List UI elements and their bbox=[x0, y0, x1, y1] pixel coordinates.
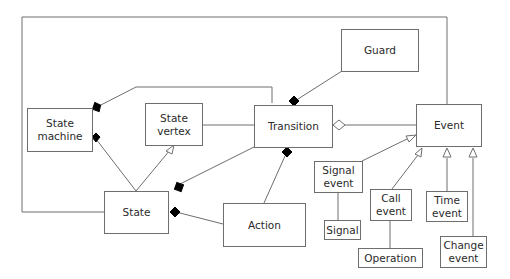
change-event-box: Change event bbox=[440, 236, 487, 268]
composition-diamond-icon bbox=[170, 207, 180, 217]
generalization-arrow-icon bbox=[469, 148, 477, 157]
generalization-arrow-icon bbox=[406, 135, 416, 142]
action-box: Action bbox=[223, 203, 306, 247]
guard-box: Guard bbox=[341, 29, 419, 72]
statemachine-state-line bbox=[96, 139, 136, 191]
transition-action-line bbox=[264, 156, 285, 203]
operation-box: Operation bbox=[358, 248, 423, 268]
state-box: State bbox=[104, 191, 169, 234]
generalization-arrow-icon bbox=[415, 148, 422, 157]
transition-guard-line bbox=[298, 71, 342, 99]
signal-box: Signal bbox=[324, 220, 361, 240]
state-action-line bbox=[176, 212, 223, 224]
state-machine-box: State machine bbox=[27, 108, 93, 152]
aggregation-diamond-icon bbox=[333, 120, 345, 130]
signal-event-box: Signal event bbox=[314, 161, 363, 193]
event-box: Event bbox=[416, 104, 482, 147]
state-vertex-box: State vertex bbox=[145, 103, 203, 146]
time-event-box: Time event bbox=[426, 191, 468, 222]
state-transition-line bbox=[176, 147, 254, 186]
composition-diamond-icon bbox=[92, 133, 100, 142]
generalization-arrow-icon bbox=[443, 148, 451, 157]
callevent-event-line bbox=[392, 155, 418, 189]
composition-diamond-icon bbox=[282, 147, 292, 157]
state-statevertex-line bbox=[136, 150, 170, 191]
call-event-box: Call event bbox=[370, 189, 412, 221]
signalevent-event-line bbox=[362, 137, 411, 161]
transition-box: Transition bbox=[254, 105, 333, 148]
